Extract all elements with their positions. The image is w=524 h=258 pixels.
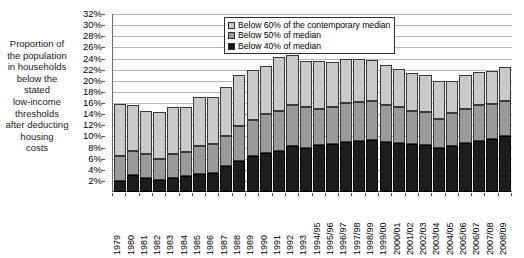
bar-segment-below60 bbox=[193, 97, 205, 146]
x-axis-tick-mark bbox=[112, 193, 113, 196]
x-axis-tick-mark bbox=[338, 193, 339, 196]
x-axis-tick-label: 1983 bbox=[166, 235, 175, 255]
bar-column[interactable] bbox=[313, 61, 325, 192]
x-axis-tick-mark bbox=[179, 193, 180, 196]
x-axis-tick-mark bbox=[351, 193, 352, 196]
bar-column[interactable] bbox=[326, 62, 338, 192]
bar-column[interactable] bbox=[340, 59, 352, 193]
bar-segment-below40 bbox=[153, 180, 165, 192]
x-axis-tick-mark bbox=[312, 193, 313, 196]
x-axis-tick-label: 1995/96 bbox=[326, 222, 335, 255]
bar-segment-below40 bbox=[393, 143, 405, 192]
x-axis-tick-mark bbox=[152, 193, 153, 196]
x-axis-tick-mark bbox=[458, 193, 459, 196]
x-axis-tick-label: 1985 bbox=[193, 235, 202, 255]
bar-column[interactable] bbox=[140, 111, 152, 192]
legend-item[interactable]: Below 50% of median bbox=[228, 30, 390, 40]
x-axis-tick-mark bbox=[391, 193, 392, 196]
bar-column[interactable] bbox=[419, 75, 431, 192]
y-axis-tick-mark bbox=[102, 36, 105, 37]
bar-segment-below60 bbox=[273, 57, 285, 110]
bar-segment-below40 bbox=[300, 148, 312, 193]
x-axis-tick-label: 1997/98 bbox=[353, 222, 362, 255]
legend-item[interactable]: Below 40% of median bbox=[228, 41, 390, 51]
bar-segment-below50 bbox=[153, 159, 165, 180]
y-axis-tick-label: 26% bbox=[70, 42, 102, 52]
bar-segment-below40 bbox=[260, 153, 272, 192]
x-axis-tick-mark bbox=[232, 193, 233, 196]
y-axis-tick-label: 6% bbox=[70, 154, 102, 164]
y-axis-tick-label: 14% bbox=[70, 109, 102, 119]
x-axis-tick-label: 1990 bbox=[260, 235, 269, 255]
bar-column[interactable] bbox=[433, 81, 445, 192]
bar-column[interactable] bbox=[499, 67, 511, 192]
bar-segment-below60 bbox=[419, 75, 431, 112]
legend-item-label: Below 60% of the contemporary median bbox=[238, 20, 390, 30]
chart-legend: Below 60% of the contemporary medianBelo… bbox=[224, 17, 395, 54]
bar-column[interactable] bbox=[114, 104, 126, 192]
bar-column[interactable] bbox=[247, 70, 259, 192]
y-axis-tick-mark bbox=[102, 59, 105, 60]
y-axis-tick-mark bbox=[102, 125, 105, 126]
bar-segment-below50 bbox=[340, 103, 352, 142]
y-axis-tick-label: 2% bbox=[70, 176, 102, 186]
y-axis-tick-mark bbox=[102, 136, 105, 137]
x-axis-tick-label: 2001/02 bbox=[406, 222, 415, 255]
bar-segment-below60 bbox=[380, 65, 392, 105]
bar-segment-below40 bbox=[273, 151, 285, 192]
x-axis-tick-label: 1981 bbox=[140, 235, 149, 255]
bar-segment-below40 bbox=[220, 166, 232, 192]
bar-segment-below50 bbox=[326, 107, 338, 144]
bar-column[interactable] bbox=[233, 75, 245, 192]
x-axis-tick-label: 1999/00 bbox=[379, 222, 388, 255]
bar-segment-below40 bbox=[193, 174, 205, 192]
bar-segment-below60 bbox=[459, 75, 471, 108]
bar-segment-below40 bbox=[499, 136, 511, 192]
y-axis-tick-mark bbox=[102, 25, 105, 26]
x-axis-tick-mark bbox=[245, 193, 246, 196]
bar-segment-below40 bbox=[247, 156, 259, 192]
bar-column[interactable] bbox=[366, 60, 378, 192]
x-axis-tick-mark bbox=[445, 193, 446, 196]
bar-column[interactable] bbox=[446, 81, 458, 192]
legend-item[interactable]: Below 60% of the contemporary median bbox=[228, 20, 390, 30]
bar-column[interactable] bbox=[193, 97, 205, 192]
bar-column[interactable] bbox=[207, 97, 219, 192]
bar-column[interactable] bbox=[393, 69, 405, 192]
bar-column[interactable] bbox=[486, 71, 498, 192]
bar-column[interactable] bbox=[273, 57, 285, 192]
bar-segment-below60 bbox=[180, 107, 192, 152]
y-axis-tick-mark bbox=[102, 70, 105, 71]
x-axis-tick-label: 1984 bbox=[180, 235, 189, 255]
bar-segment-below50 bbox=[273, 111, 285, 151]
bar-segment-below60 bbox=[153, 112, 165, 159]
bar-column[interactable] bbox=[353, 59, 365, 193]
bar-column[interactable] bbox=[406, 73, 418, 192]
x-axis-tick-label: 2003/04 bbox=[432, 222, 441, 255]
bar-segment-below60 bbox=[326, 62, 338, 108]
bar-column[interactable] bbox=[473, 72, 485, 192]
bar-segment-below50 bbox=[167, 154, 179, 177]
bar-column[interactable] bbox=[220, 87, 232, 192]
x-axis-tick-label: 1979 bbox=[113, 235, 122, 255]
bar-column[interactable] bbox=[127, 105, 139, 192]
bar-segment-below50 bbox=[473, 105, 485, 141]
bar-column[interactable] bbox=[459, 75, 471, 192]
bar-column[interactable] bbox=[380, 65, 392, 192]
bar-column[interactable] bbox=[300, 61, 312, 192]
bar-segment-below60 bbox=[473, 72, 485, 105]
bar-segment-below60 bbox=[286, 55, 298, 105]
bar-segment-below60 bbox=[220, 87, 232, 136]
bar-column[interactable] bbox=[286, 55, 298, 192]
bar-column[interactable] bbox=[153, 112, 165, 192]
y-axis-tick-label: 28% bbox=[70, 31, 102, 41]
bar-column[interactable] bbox=[180, 107, 192, 192]
y-axis-title-line: the population bbox=[2, 50, 72, 62]
bar-column[interactable] bbox=[167, 107, 179, 192]
x-axis-tick-mark bbox=[431, 193, 432, 196]
y-axis-tick-label: 22% bbox=[70, 65, 102, 75]
x-axis-tick-mark bbox=[298, 193, 299, 196]
y-axis-tick-mark bbox=[102, 92, 105, 93]
bar-column[interactable] bbox=[260, 66, 272, 192]
x-axis-tick-mark bbox=[405, 193, 406, 196]
